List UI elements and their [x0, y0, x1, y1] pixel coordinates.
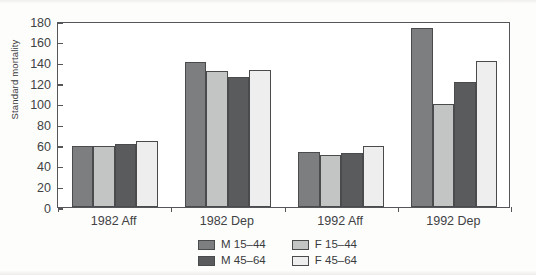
bar	[476, 61, 498, 207]
y-tick-mark	[58, 84, 63, 85]
bar	[363, 146, 385, 207]
bar	[93, 146, 115, 207]
bar-group	[411, 23, 497, 207]
legend-item: F 15–44	[292, 238, 357, 252]
y-tick-label: 40	[37, 161, 58, 174]
bar	[249, 70, 271, 207]
chart-legend: M 15–44F 15–44M 45–64F 45–64	[198, 238, 357, 268]
bar-group	[72, 23, 158, 207]
legend-item: M 45–64	[198, 254, 266, 268]
bar	[341, 153, 363, 207]
bar-group	[185, 23, 271, 207]
bar	[320, 155, 342, 207]
y-tick-label: 100	[30, 99, 58, 112]
y-tick-mark	[58, 64, 63, 65]
bar	[298, 152, 320, 207]
y-tick-label: 60	[37, 141, 58, 154]
legend-swatch	[292, 240, 309, 250]
bar	[228, 77, 250, 207]
chart-figure: Standard mortality 020406080100120140160…	[0, 0, 536, 275]
x-tick-mark	[58, 207, 59, 212]
scan-edge-bottom	[0, 271, 536, 275]
x-tick-mark	[398, 207, 399, 212]
bar	[411, 28, 433, 207]
y-tick-label: 140	[30, 58, 58, 71]
legend-swatch	[198, 256, 215, 266]
bar	[115, 144, 137, 207]
bar	[206, 71, 228, 207]
legend-label: F 45–64	[315, 255, 357, 267]
y-tick-mark	[58, 188, 63, 189]
legend-label: F 15–44	[315, 239, 357, 251]
y-tick-mark	[58, 105, 63, 106]
scan-edge-top	[0, 0, 536, 3]
y-tick-label: 20	[37, 182, 58, 195]
x-tick-mark	[285, 207, 286, 212]
x-tick-label: 1982 Dep	[167, 214, 287, 228]
legend-swatch	[292, 256, 309, 266]
plot-area: 020406080100120140160180	[57, 22, 510, 208]
y-tick-mark	[58, 43, 63, 44]
y-tick-mark	[58, 167, 63, 168]
x-tick-label: 1982 Aff	[54, 214, 174, 228]
y-tick-label: 80	[37, 120, 58, 133]
legend-item: M 15–44	[198, 238, 266, 252]
legend-label: M 45–64	[221, 255, 266, 267]
bar	[433, 104, 455, 207]
y-tick-label: 160	[30, 37, 58, 50]
y-tick-mark	[58, 126, 63, 127]
y-tick-mark	[58, 146, 63, 147]
bar-group	[298, 23, 384, 207]
y-axis-title: Standard mortality	[9, 0, 20, 160]
x-tick-label: 1992 Dep	[393, 214, 513, 228]
x-tick-label: 1992 Aff	[280, 214, 400, 228]
bar	[72, 146, 94, 207]
legend-label: M 15–44	[221, 239, 266, 251]
legend-swatch	[198, 240, 215, 250]
y-tick-mark	[58, 22, 63, 23]
bar	[454, 82, 476, 207]
y-tick-label: 180	[30, 17, 58, 30]
bar	[136, 141, 158, 207]
x-tick-mark	[511, 207, 512, 212]
x-tick-mark	[171, 207, 172, 212]
y-tick-label: 120	[30, 79, 58, 92]
bar	[185, 62, 207, 207]
legend-item: F 45–64	[292, 254, 357, 268]
